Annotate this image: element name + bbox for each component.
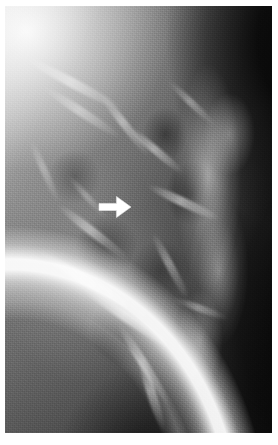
radiograph-page	[0, 0, 278, 445]
film-grain-layer	[5, 6, 272, 433]
radiograph-film-plate	[5, 6, 272, 433]
